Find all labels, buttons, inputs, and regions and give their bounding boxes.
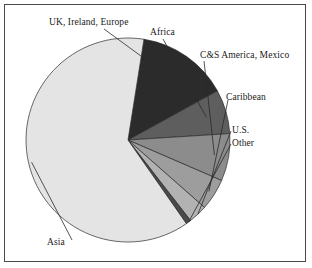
pie-label-us: U.S. bbox=[232, 126, 249, 136]
pie-label-uk-ireland-europe: UK, Ireland, Europe bbox=[49, 18, 128, 28]
pie-label-asia: Asia bbox=[47, 238, 65, 248]
pie-label-caribbean: Caribbean bbox=[226, 93, 266, 103]
pie-chart-canvas bbox=[0, 0, 312, 268]
pie-label-cs-america-mexico: C&S America, Mexico bbox=[200, 51, 289, 61]
pie-chart-figure: UK, Ireland, Europe Africa C&S America, … bbox=[0, 0, 312, 268]
pie-label-other: Other bbox=[232, 139, 254, 149]
pie-label-africa: Africa bbox=[150, 28, 175, 38]
